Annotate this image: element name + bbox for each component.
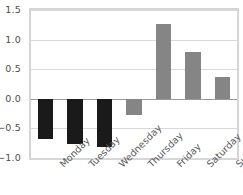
plot-area <box>29 8 239 160</box>
x-tick-label-friday: Friday <box>175 161 183 169</box>
x-tick-label-thursday: Thursday <box>145 161 153 169</box>
bar-saturday <box>185 52 200 99</box>
x-axis: MondayTuesdayWednesdayThursdayFridaySatu… <box>29 160 239 195</box>
y-tick-label: 0.5 <box>0 64 25 74</box>
y-tick-label: 0.0 <box>0 94 25 104</box>
x-tick-label-tuesday: Tuesday <box>86 161 94 169</box>
bar-monday <box>38 99 53 139</box>
x-tick-label-monday: Monday <box>57 161 65 169</box>
x-tick-label-wednesday: Wednesday <box>116 161 124 169</box>
x-tick-label-saturday: Saturday <box>204 161 212 169</box>
y-tick-label: 1.5 <box>0 5 25 15</box>
bar-friday <box>156 24 171 99</box>
y-tick-label: 1.0 <box>0 35 25 45</box>
bar-thursday <box>126 99 141 115</box>
bars-group <box>31 10 237 158</box>
bar-sunday <box>215 77 230 98</box>
y-axis: 1.51.00.50.0−0.5−1.0 <box>0 0 25 195</box>
bar-chart: 1.51.00.50.0−0.5−1.0 MondayTuesdayWednes… <box>0 0 243 195</box>
x-tick-label-sunday: Sunday <box>234 161 242 169</box>
plot-inner <box>31 10 237 158</box>
y-tick-label: −1.0 <box>0 153 25 163</box>
y-tick-label: −0.5 <box>0 124 25 134</box>
